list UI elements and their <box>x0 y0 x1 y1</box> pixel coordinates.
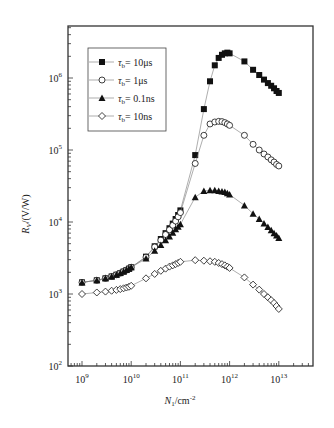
x-axis-title: N1/cm-2 <box>163 394 196 408</box>
y-tick-label: 104 <box>49 215 63 228</box>
series-triangle-filled <box>79 187 283 286</box>
y-axis: 102103104105106 <box>49 28 74 372</box>
chart-canvas: 1091010101110121013 102103104105106 τb= … <box>0 0 334 428</box>
y-tick-label: 102 <box>49 359 63 372</box>
x-tick-label: 1010 <box>123 372 141 385</box>
x-tick-label: 1013 <box>270 372 288 385</box>
x-axis: 1091010101110121013 <box>71 361 308 385</box>
y-tick-label: 103 <box>49 287 63 300</box>
x-tick-label: 1012 <box>221 372 239 385</box>
x-tick-label: 109 <box>75 372 89 385</box>
y-axis-title: RV/(V/W) <box>20 194 33 234</box>
legend: τb= 10μsτb= 1μsτb= 0.1nsτb= 10ns <box>88 48 166 131</box>
series-diamond-open <box>79 257 283 313</box>
x-tick-label: 1011 <box>172 372 189 385</box>
y-tick-label: 105 <box>49 143 63 156</box>
y-tick-label: 106 <box>49 71 63 84</box>
